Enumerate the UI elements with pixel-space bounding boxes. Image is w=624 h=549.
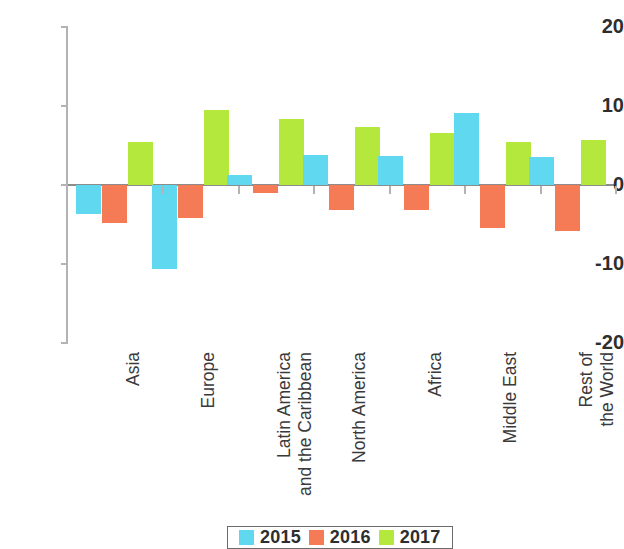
y-axis-tick [61, 342, 68, 344]
bar-2017-europe [204, 110, 229, 185]
bar-2015-middle-east [454, 113, 479, 185]
bar-group [529, 27, 606, 343]
bar-2015-europe [152, 185, 177, 269]
x-axis-label-rest-of-the-world: Rest of the World [576, 352, 619, 522]
y-axis-tick [61, 263, 68, 265]
legend-item-2017[interactable]: 2017 [379, 527, 441, 548]
x-axis-tick [389, 186, 391, 194]
x-axis-label-africa: Africa [425, 352, 446, 522]
bar-group [454, 27, 531, 343]
x-axis-label-middle-east: Middle East [500, 352, 521, 522]
bar-2017-asia [128, 142, 153, 185]
x-axis-label-north-america: North America [349, 352, 370, 522]
legend-label: 2016 [330, 527, 371, 548]
bar-2015-north-america [303, 155, 328, 185]
bar-2015-latin-america-and-the-caribbean [227, 175, 252, 185]
x-axis-tick [464, 186, 466, 194]
bar-2016-rest-of-the-world [555, 185, 580, 231]
bar-2015-asia [76, 185, 101, 214]
bar-2016-europe [178, 185, 203, 218]
bar-2016-asia [102, 185, 127, 223]
bar-chart: 20100-10-20 AsiaEuropeLatin America and … [0, 0, 624, 549]
bar-group [76, 27, 153, 343]
bar-group [303, 27, 380, 343]
legend-label: 2015 [260, 527, 301, 548]
legend-item-2016[interactable]: 2016 [309, 527, 371, 548]
bar-2017-latin-america-and-the-caribbean [279, 119, 304, 185]
legend-swatch-icon [379, 530, 394, 545]
legend-label: 2017 [400, 527, 441, 548]
plot-area [68, 27, 616, 343]
x-axis-tick [540, 186, 542, 194]
y-axis-tick [61, 26, 68, 28]
bar-group [378, 27, 455, 343]
bar-2016-middle-east [480, 185, 505, 228]
y-axis-tick [61, 184, 68, 186]
chart-legend: 201520162017 [227, 526, 453, 549]
x-axis-tick [615, 186, 617, 194]
bar-2017-middle-east [506, 142, 531, 185]
bar-2015-rest-of-the-world [529, 157, 554, 185]
x-axis-tick [238, 186, 240, 194]
legend-swatch-icon [239, 530, 254, 545]
bar-2016-latin-america-and-the-caribbean [253, 185, 278, 193]
x-axis-tick [313, 186, 315, 194]
bar-group [152, 27, 229, 343]
legend-item-2015[interactable]: 2015 [239, 527, 301, 548]
bar-2016-north-america [329, 185, 354, 210]
bar-2017-rest-of-the-world [581, 140, 606, 185]
y-axis-tick [61, 105, 68, 107]
x-axis-label-europe: Europe [198, 352, 219, 522]
x-axis-label-asia: Asia [123, 352, 144, 522]
bar-group [227, 27, 304, 343]
bar-2017-north-america [355, 127, 380, 185]
x-axis-label-latin-america-and-the-caribbean: Latin America and the Caribbean [274, 352, 317, 522]
x-axis-tick [162, 186, 164, 194]
bar-2016-africa [404, 185, 429, 210]
bar-2015-africa [378, 156, 403, 185]
legend-swatch-icon [309, 530, 324, 545]
bar-2017-africa [430, 133, 455, 185]
